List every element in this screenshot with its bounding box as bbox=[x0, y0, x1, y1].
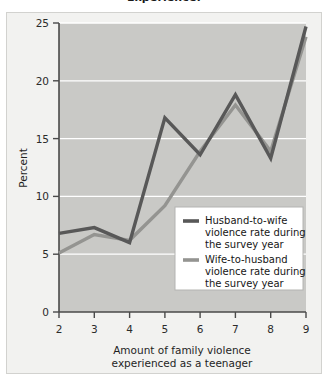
figure-title-strip: Experience: bbox=[0, 0, 328, 11]
x-tick-label-3: 3 bbox=[91, 323, 98, 335]
x-tick-label-6: 6 bbox=[197, 323, 204, 335]
y-tick-label-0: 0 bbox=[42, 306, 49, 318]
x-axis-ticks bbox=[59, 312, 306, 318]
legend: Husband-to-wife violence rate during the… bbox=[175, 207, 306, 290]
y-tick-label-25: 25 bbox=[36, 17, 49, 29]
legend-label-wife-to-husband-line2: violence rate during bbox=[205, 266, 306, 277]
y-tick-label-10: 10 bbox=[36, 190, 49, 202]
x-tick-label-4: 4 bbox=[126, 323, 133, 335]
figure-partial-title: Experience: bbox=[0, 0, 328, 4]
figure-page: Experience: bbox=[0, 0, 328, 381]
x-axis-title-line1: Amount of family violence bbox=[113, 344, 251, 356]
x-tick-label-7: 7 bbox=[232, 323, 239, 335]
legend-label-wife-to-husband-line3: the survey year bbox=[205, 278, 285, 289]
x-tick-label-8: 8 bbox=[267, 323, 274, 335]
x-tick-label-2: 2 bbox=[56, 323, 63, 335]
y-tick-label-20: 20 bbox=[36, 75, 49, 87]
line-chart: 25 20 15 10 5 0 2 3 4 5 6 7 8 9 Percent … bbox=[7, 13, 321, 373]
legend-label-husband-to-wife-line1: Husband-to-wife bbox=[205, 215, 287, 226]
legend-label-husband-to-wife-line2: violence rate during bbox=[205, 227, 306, 238]
y-tick-label-15: 15 bbox=[36, 133, 49, 145]
legend-label-husband-to-wife-line3: the survey year bbox=[205, 239, 285, 250]
legend-label-wife-to-husband-line1: Wife-to-husband bbox=[205, 254, 288, 265]
x-tick-label-5: 5 bbox=[162, 323, 169, 335]
figure-panel: 25 20 15 10 5 0 2 3 4 5 6 7 8 9 Percent … bbox=[6, 12, 322, 374]
y-axis-ticks bbox=[53, 23, 59, 312]
x-axis-title-line2: experienced as a teenager bbox=[112, 357, 253, 369]
y-axis-title: Percent bbox=[17, 148, 29, 188]
x-tick-label-9: 9 bbox=[303, 323, 310, 335]
y-tick-label-5: 5 bbox=[42, 248, 49, 260]
